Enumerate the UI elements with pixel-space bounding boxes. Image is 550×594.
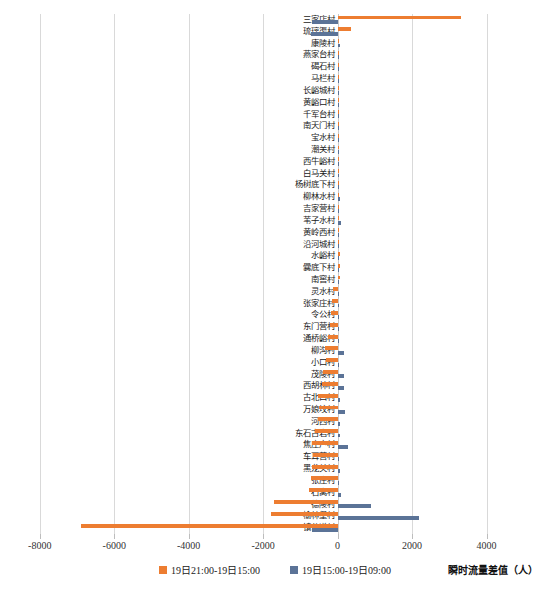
bar-row: 南窖村 <box>10 274 520 286</box>
bar-0 <box>332 299 338 303</box>
category-label: 西牛峪村 <box>303 156 336 168</box>
bar-1 <box>338 103 339 107</box>
category-label: 千军台村 <box>303 109 336 121</box>
category-label: 南窖村 <box>311 274 336 286</box>
bar-0 <box>315 429 338 433</box>
bar-0 <box>338 169 339 173</box>
bar-1 <box>338 516 420 520</box>
legend-item-1[interactable]: 19日15:00-19日09:00 <box>290 562 391 577</box>
bar-1 <box>338 197 341 201</box>
category-label: 潮关村 <box>311 144 336 156</box>
bar-1 <box>338 398 340 402</box>
bar-1 <box>338 67 339 71</box>
bar-1 <box>338 410 345 414</box>
bar-1 <box>338 493 342 497</box>
bar-0 <box>338 16 462 20</box>
bar-row: 康陵村 <box>10 38 520 50</box>
bar-row: 小口村 <box>10 357 520 369</box>
bar-row: 榆林堡村 <box>10 510 520 522</box>
bar-0 <box>338 252 340 256</box>
bar-row: 德陵村 <box>10 499 520 511</box>
bar-0 <box>338 193 339 197</box>
category-label: 马栏村 <box>311 73 336 85</box>
x-axis-title: 瞬时流量差值（人） <box>448 562 538 577</box>
bar-row: 马栏村 <box>10 73 520 85</box>
bar-row: 黄峪口村 <box>10 97 520 109</box>
bar-1 <box>338 91 339 95</box>
bar-0 <box>309 488 337 492</box>
bar-1 <box>338 363 339 367</box>
bar-1 <box>312 528 338 532</box>
bar-1 <box>338 150 339 154</box>
category-label: 白马关村 <box>303 168 336 180</box>
bar-row: 潮关村 <box>10 144 520 156</box>
legend-swatch-icon <box>159 566 167 574</box>
bar-0 <box>322 382 338 386</box>
bar-0 <box>338 157 339 161</box>
bar-1 <box>338 445 349 449</box>
x-tick-label: -2000 <box>251 540 274 551</box>
bar-0 <box>333 287 337 291</box>
bar-row: 车耳营村 <box>10 451 520 463</box>
bar-1 <box>338 457 339 461</box>
bar-1 <box>338 79 339 83</box>
x-axis: -8000-6000-4000-2000020004000 <box>10 534 520 554</box>
bar-1 <box>338 351 344 355</box>
bar-0 <box>274 500 337 504</box>
bar-1 <box>338 434 340 438</box>
bar-0 <box>338 86 339 90</box>
category-label: 宝水村 <box>311 132 336 144</box>
bar-1 <box>338 315 339 319</box>
bar-row: 焦庄户村 <box>10 439 520 451</box>
plot-area: 三家店村琉璃渠村康陵村燕家台村碣石村马栏村长峪城村黄峪口村千军台村南天门村宝水村… <box>10 14 520 534</box>
bar-0 <box>313 453 338 457</box>
bar-0 <box>338 228 340 232</box>
bar-row: 吉家营村 <box>10 203 520 215</box>
bar-0 <box>312 441 338 445</box>
bar-1 <box>338 244 339 248</box>
bar-0 <box>338 181 339 185</box>
x-tick-label: -6000 <box>103 540 126 551</box>
bar-row: 千军台村 <box>10 109 520 121</box>
legend-item-0[interactable]: 19日21:00-19日15:00 <box>159 562 260 577</box>
bar-1 <box>338 469 341 473</box>
bar-1 <box>338 162 339 166</box>
x-tick <box>114 534 115 539</box>
bar-row: 张庄村 <box>10 475 520 487</box>
x-tick <box>40 534 41 539</box>
category-label: 康陵村 <box>311 38 336 50</box>
category-label: 沿河城村 <box>303 239 336 251</box>
bar-row: 黄岭西村 <box>10 227 520 239</box>
category-label: 碣石村 <box>311 61 336 73</box>
bar-1 <box>338 280 339 284</box>
bar-row: 东门营村 <box>10 321 520 333</box>
bar-row: 琉璃渠村 <box>10 26 520 38</box>
bar-0 <box>338 98 339 102</box>
x-tick <box>487 534 488 539</box>
bar-0 <box>338 134 339 138</box>
bar-row: 通桥峪村 <box>10 333 520 345</box>
bar-0 <box>338 240 340 244</box>
category-label: 爨底下村 <box>303 262 336 274</box>
bar-0 <box>326 358 338 362</box>
bar-row: 杨树底下村 <box>10 179 520 191</box>
bar-1 <box>338 174 339 178</box>
bar-0 <box>318 417 338 421</box>
legend-label: 19日15:00-19日09:00 <box>302 562 391 577</box>
bar-1 <box>338 221 341 225</box>
bar-0 <box>338 110 339 114</box>
bar-row: 宝水村 <box>10 132 520 144</box>
x-tick-label: 2000 <box>402 540 422 551</box>
bar-row: 水峪村 <box>10 250 520 262</box>
bar-row: 西胡林村 <box>10 380 520 392</box>
bar-1 <box>338 339 339 343</box>
category-label: 燕家台村 <box>303 49 336 61</box>
bar-1 <box>338 481 339 485</box>
legend-label: 19日21:00-19日15:00 <box>171 562 260 577</box>
bar-1 <box>338 304 339 308</box>
x-tick-label: -8000 <box>28 540 51 551</box>
bar-1 <box>338 292 339 296</box>
category-label: 长峪城村 <box>303 85 336 97</box>
bar-1 <box>338 268 339 272</box>
category-label: 吉家营村 <box>303 203 336 215</box>
